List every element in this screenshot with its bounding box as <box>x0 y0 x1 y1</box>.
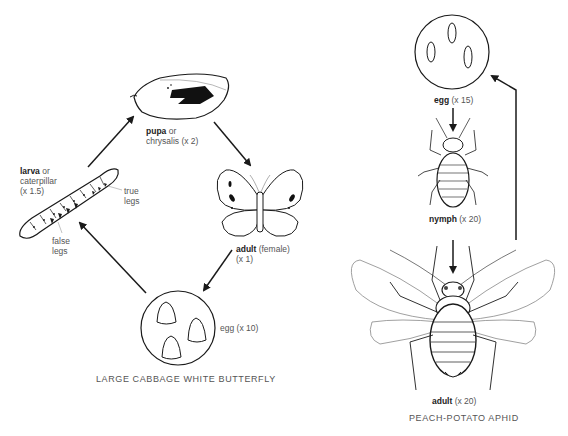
butterfly-egg-label: egg (x 10) <box>220 323 258 333</box>
pupa-name: pupa <box>146 126 166 136</box>
butterfly-title: LARGE CABBAGE WHITE BUTTERFLY <box>96 374 276 384</box>
larva-name: larva <box>20 166 40 176</box>
arrow-adult-to-egg-aphid <box>492 76 516 240</box>
aphid-egg-label: egg (x 15) <box>434 95 473 105</box>
aphid-egg-illustration <box>415 15 489 89</box>
nymph-illustration <box>418 118 488 207</box>
butterfly-adult-label: adult (female) (x 1) <box>236 244 290 264</box>
arrow-egg-to-larva <box>80 223 146 293</box>
nymph-label: nymph (x 20) <box>429 214 481 224</box>
butterfly-adult-scale: (x 1) <box>236 254 253 264</box>
butterfly-adult-name: adult <box>236 244 256 254</box>
larva-scale: (x 1.5) <box>20 186 44 196</box>
true-legs-annotation: true legs <box>124 186 140 206</box>
larva-label: larva or caterpillar (x 1.5) <box>20 166 57 196</box>
pupa-scale: chrysalis (x 2) <box>146 136 198 146</box>
butterfly-illustration <box>217 170 303 236</box>
aphid-adult-label: adult (x 20) <box>432 396 476 406</box>
pupa-label: pupa or chrysalis (x 2) <box>146 126 198 146</box>
arrow-larva-to-pupa <box>88 117 133 167</box>
arrow-adult-to-egg <box>204 250 232 290</box>
life-cycle-artwork <box>0 0 568 436</box>
butterfly-egg-illustration <box>141 291 215 365</box>
aphid-title: PEACH-POTATO APHID <box>409 413 519 423</box>
arrow-pupa-to-adult <box>214 122 250 165</box>
false-legs-annotation: false legs <box>52 236 70 256</box>
pupa-illustration <box>130 74 229 119</box>
